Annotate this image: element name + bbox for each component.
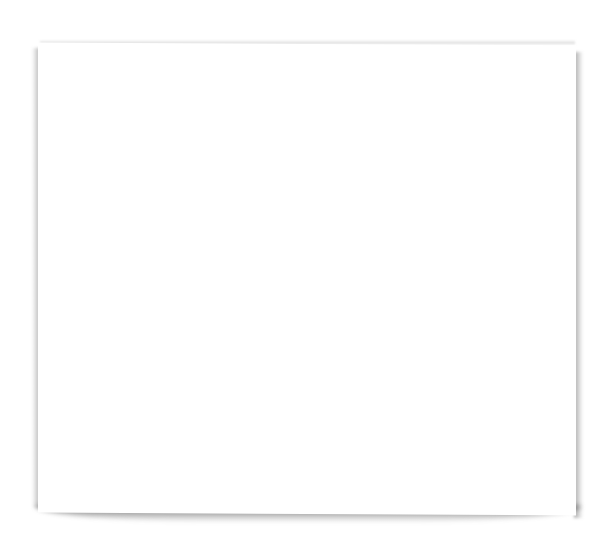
blank-paper-card: [38, 43, 576, 516]
canvas: [0, 0, 609, 553]
